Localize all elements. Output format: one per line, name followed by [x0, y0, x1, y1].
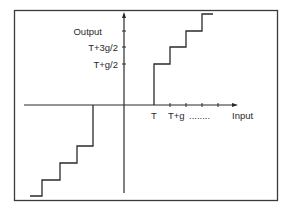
x-tick-label-t: T [151, 110, 157, 121]
y-tick-label-t-3g2: T+3g/2 [88, 42, 118, 53]
y-axis-arrow-icon [122, 12, 126, 18]
negative-staircase [30, 105, 93, 196]
quantizer-diagram: Output T+3g/2 T+g/2 T T+g ........ Input [0, 0, 290, 211]
y-axis-title: Output [73, 26, 102, 37]
y-axis [122, 12, 126, 193]
x-tick-label-t-g: T+g [168, 110, 185, 121]
x-axis-arrow-icon [232, 103, 238, 107]
positive-staircase [154, 14, 213, 105]
x-axis [24, 103, 238, 107]
x-axis-title: Input [232, 110, 253, 121]
y-tick-label-t-g2: T+g/2 [93, 59, 118, 70]
x-tick-ellipsis: ........ [189, 110, 210, 121]
